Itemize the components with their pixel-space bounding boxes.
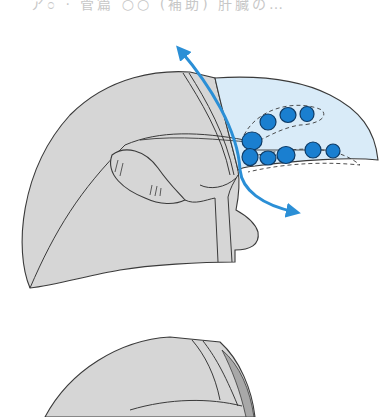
lower-liver-view-partial (45, 337, 255, 417)
liver-illustration (0, 0, 391, 417)
upper-liver-view (22, 50, 378, 288)
